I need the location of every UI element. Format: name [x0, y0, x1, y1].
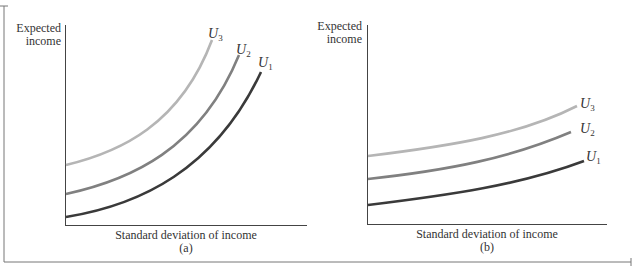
- panel-a-curve-u3: [66, 40, 212, 165]
- panel-b-ylabel-line1: Expected: [317, 19, 362, 33]
- panel-a: Expected income U3 U2 U1 Standard deviat…: [16, 21, 307, 255]
- panel-b: Expected income U3 U2 U1 Standard deviat…: [317, 19, 607, 254]
- panel-b-panel-label: (b): [480, 240, 494, 254]
- panel-a-ylabel-line1: Expected: [16, 21, 61, 35]
- panel-a-curve-u1: [66, 72, 261, 217]
- panel-a-label-u1: U1: [258, 55, 273, 72]
- panel-b-ylabel-line2: income: [327, 32, 362, 46]
- figure: Expected income U3 U2 U1 Standard deviat…: [0, 0, 633, 273]
- panel-b-curve-u2: [368, 132, 571, 179]
- panel-b-label-u3: U3: [580, 96, 595, 113]
- panel-b-label-u2: U2: [580, 121, 595, 138]
- panel-b-label-u1: U1: [586, 149, 601, 166]
- panel-a-xlabel: Standard deviation of income: [115, 228, 257, 242]
- panel-a-panel-label: (a): [179, 241, 192, 255]
- panel-b-xlabel: Standard deviation of income: [416, 227, 558, 241]
- panel-b-curve-u3: [368, 106, 577, 156]
- panel-a-label-u3: U3: [208, 26, 223, 43]
- panel-a-label-u2: U2: [236, 42, 251, 59]
- panel-b-curve-u1: [368, 161, 584, 205]
- panel-a-ylabel-line2: income: [26, 34, 61, 48]
